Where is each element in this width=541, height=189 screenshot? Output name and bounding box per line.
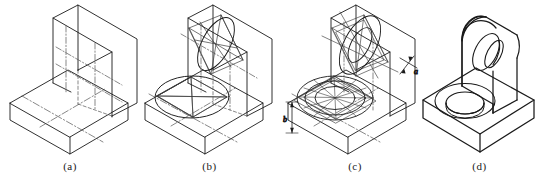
panel-d-caption: (d): [418, 160, 541, 172]
panel-c: a b (c): [280, 0, 430, 189]
construction-rays-c: [298, 76, 372, 119]
base-slab-b: [145, 70, 263, 154]
panel-d: (d): [418, 0, 541, 189]
panel-c-caption: (c): [280, 160, 430, 172]
through-hole-d: [467, 29, 507, 75]
panel-b: (b): [137, 0, 282, 189]
panel-a-caption: (a): [0, 160, 140, 172]
dimension-b-label: b: [283, 115, 287, 124]
top-rhombus-b: [157, 77, 227, 117]
panel-c-drawing: a b: [280, 0, 430, 160]
panel-b-drawing: [137, 0, 282, 160]
panel-b-caption: (b): [137, 160, 282, 172]
figure-container: (a): [0, 0, 541, 189]
base-slab-a: [10, 70, 128, 154]
panel-a-drawing: [0, 0, 140, 160]
panel-d-drawing: [418, 0, 541, 160]
counterbore-d: [435, 84, 495, 119]
panel-a: (a): [0, 0, 140, 189]
